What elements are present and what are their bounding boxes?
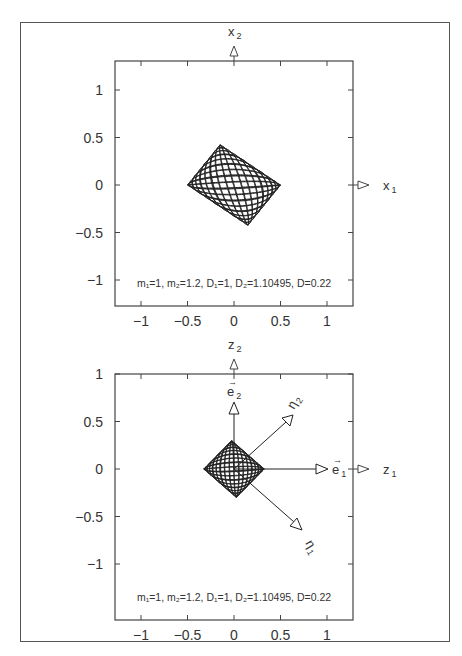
x-tick-label: 0 [230,313,238,329]
e1-arrow-icon [316,464,328,474]
e2-vector-mark: → [228,377,237,387]
y-tick-label: 0 [95,177,103,193]
bottom-plot: −1−0.500.51−1−0.500.51 z2 z1 e2 → e1 → η… [75,337,396,643]
eta2-label: η2 [284,393,305,413]
y-tick-label: 1 [95,82,103,98]
y-tick-label: 0.5 [84,130,104,146]
top-params-annotation: m₁=1, m₂=1.2, D₁=1, D₂=1.10495, D=0.22 [137,277,331,289]
x2-arrow-icon [230,46,238,56]
x-tick-label: −0.5 [174,627,202,643]
y-tick-label: −0.5 [75,509,103,525]
y-tick-label: 0.5 [84,414,104,430]
x-tick-label: −1 [133,627,149,643]
figure-canvas: −1−0.500.51−1−0.500.51 x2 x1 m₁=1, m₂=1.… [0,0,462,656]
x-tick-label: 0 [230,627,238,643]
top-plot: −1−0.500.51−1−0.500.51 x2 x1 m₁=1, m₂=1.… [75,24,396,329]
bottom-params-annotation: m₁=1, m₂=1.2, D₁=1, D₂=1.10495, D=0.22 [137,591,331,603]
y-tick-label: 1 [95,366,103,382]
eta2-vector [234,422,286,469]
y-tick-label: −0.5 [75,225,103,241]
e1-vector-mark: → [333,455,342,465]
y-tick-label: −1 [87,272,103,288]
e2-arrow-icon [229,402,239,414]
z1-label: z1 [383,462,397,479]
x-tick-label: 1 [323,313,331,329]
x1-label: x1 [383,178,397,195]
eta1-vector [234,469,294,522]
x-tick-label: 1 [323,627,331,643]
x-tick-label: 0.5 [271,627,291,643]
z1-arrow-icon [358,465,369,473]
x-tick-label: 0.5 [271,313,291,329]
z2-arrow-icon [230,359,238,369]
eta1-label: η1 [301,537,322,557]
z2-label: z2 [228,337,242,354]
y-tick-label: 0 [95,461,103,477]
x2-label: x2 [228,24,242,41]
x-tick-label: −1 [133,313,149,329]
y-tick-label: −1 [87,556,103,572]
x1-arrow-icon [358,181,369,189]
top-trajectory [188,145,281,226]
x-tick-label: −0.5 [174,313,202,329]
